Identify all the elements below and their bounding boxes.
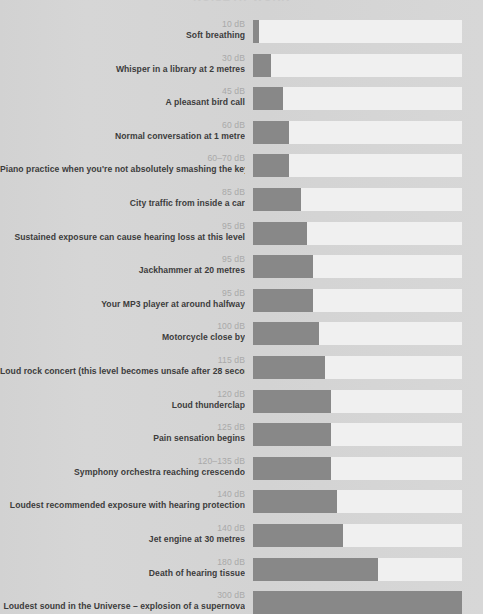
- bar-segment-empty: [456, 20, 462, 43]
- noise-level-row: 45 dBA pleasant bird call: [0, 86, 483, 120]
- row-labels: 95 dBYour MP3 player at around halfway: [0, 288, 253, 310]
- segmented-level-bar: [253, 390, 462, 413]
- decibel-label: 125 dB: [0, 422, 245, 433]
- noise-level-row: 125 dBPain sensation begins: [0, 422, 483, 456]
- source-description-label: Loud thunderclap: [0, 400, 245, 411]
- row-labels: 140 dBLoudest recommended exposure with …: [0, 489, 253, 511]
- segmented-level-bar: [253, 591, 462, 614]
- row-labels: 100 dBMotorcycle close by: [0, 321, 253, 343]
- decibel-label: 100 dB: [0, 321, 245, 332]
- source-description-label: Loudest sound in the Universe – explosio…: [0, 601, 245, 612]
- row-labels: 60–70 dBPiano practice when you're not a…: [0, 153, 253, 175]
- segmented-level-bar: [253, 54, 462, 77]
- noise-level-row: 180 dBDeath of hearing tissue: [0, 557, 483, 591]
- bar-segment-empty: [456, 356, 462, 379]
- noise-level-row: 30 dBWhisper in a library at 2 metres: [0, 53, 483, 87]
- segmented-level-bar: [253, 222, 462, 245]
- noise-level-row: 120–135 dBSymphony orchestra reaching cr…: [0, 456, 483, 490]
- decibel-label: 85 dB: [0, 187, 245, 198]
- segmented-level-bar: [253, 289, 462, 312]
- row-labels: 85 dBCity traffic from inside a car: [0, 187, 253, 209]
- row-labels: 95 dBSustained exposure can cause hearin…: [0, 221, 253, 243]
- segmented-level-bar: [253, 558, 462, 581]
- noise-level-row: 60 dBNormal conversation at 1 metre: [0, 120, 483, 154]
- segmented-level-bar: [253, 524, 462, 547]
- decibel-label: 95 dB: [0, 288, 245, 299]
- decibel-label: 10 dB: [0, 19, 245, 30]
- row-labels: 120 dBLoud thunderclap: [0, 389, 253, 411]
- page-title: NOISE AT WORK: [0, 0, 483, 3]
- decibel-label: 120–135 dB: [0, 456, 245, 467]
- decibel-label: 140 dB: [0, 489, 245, 500]
- row-labels: 30 dBWhisper in a library at 2 metres: [0, 53, 253, 75]
- source-description-label: Piano practice when you're not absolutel…: [0, 164, 245, 175]
- noise-level-row: 120 dBLoud thunderclap: [0, 389, 483, 423]
- decibel-label: 60 dB: [0, 120, 245, 131]
- decibel-label: 120 dB: [0, 389, 245, 400]
- noise-level-row: 85 dBCity traffic from inside a car: [0, 187, 483, 221]
- noise-level-row: 10 dBSoft breathing: [0, 19, 483, 53]
- source-description-label: Death of hearing tissue: [0, 568, 245, 579]
- source-description-label: Your MP3 player at around halfway: [0, 299, 245, 310]
- bar-segment-empty: [456, 390, 462, 413]
- noise-level-row: 100 dBMotorcycle close by: [0, 321, 483, 355]
- row-labels: 120–135 dBSymphony orchestra reaching cr…: [0, 456, 253, 478]
- noise-level-row: 95 dBJackhammer at 20 metres: [0, 254, 483, 288]
- segmented-level-bar: [253, 87, 462, 110]
- bar-segment-filled: [456, 591, 462, 614]
- segmented-level-bar: [253, 423, 462, 446]
- source-description-label: Jackhammer at 20 metres: [0, 265, 245, 276]
- source-description-label: Loudest recommended exposure with hearin…: [0, 500, 245, 511]
- decibel-label: 45 dB: [0, 86, 245, 97]
- row-labels: 180 dBDeath of hearing tissue: [0, 557, 253, 579]
- segmented-level-bar: [253, 490, 462, 513]
- bar-segment-empty: [456, 457, 462, 480]
- bar-segment-empty: [456, 54, 462, 77]
- source-description-label: A pleasant bird call: [0, 97, 245, 108]
- row-labels: 140 dBJet engine at 30 metres: [0, 523, 253, 545]
- decibel-label: 115 dB: [0, 355, 245, 366]
- row-labels: 125 dBPain sensation begins: [0, 422, 253, 444]
- noise-level-row: 60–70 dBPiano practice when you're not a…: [0, 153, 483, 187]
- bar-segment-empty: [456, 490, 462, 513]
- segmented-level-bar: [253, 154, 462, 177]
- bar-segment-empty: [456, 322, 462, 345]
- bar-segment-empty: [456, 524, 462, 547]
- noise-level-row: 115 dBLoud rock concert (this level beco…: [0, 355, 483, 389]
- bar-segment-empty: [456, 423, 462, 446]
- row-labels: 10 dBSoft breathing: [0, 19, 253, 41]
- decibel-label: 300 dB: [0, 590, 245, 601]
- bar-segment-empty: [456, 222, 462, 245]
- row-labels: 115 dBLoud rock concert (this level beco…: [0, 355, 253, 377]
- source-description-label: City traffic from inside a car: [0, 198, 245, 209]
- segmented-level-bar: [253, 322, 462, 345]
- bar-segment-empty: [456, 154, 462, 177]
- segmented-level-bar: [253, 255, 462, 278]
- bar-segment-empty: [456, 121, 462, 144]
- bar-segment-empty: [456, 558, 462, 581]
- source-description-label: Pain sensation begins: [0, 433, 245, 444]
- source-description-label: Symphony orchestra reaching crescendo: [0, 467, 245, 478]
- row-labels: 45 dBA pleasant bird call: [0, 86, 253, 108]
- bar-segment-empty: [456, 188, 462, 211]
- bar-segment-empty: [456, 255, 462, 278]
- decibel-label: 60–70 dB: [0, 153, 245, 164]
- source-description-label: Sustained exposure can cause hearing los…: [0, 232, 245, 243]
- noise-level-row: 300 dBLoudest sound in the Universe – ex…: [0, 590, 483, 614]
- source-description-label: Loud rock concert (this level becomes un…: [0, 366, 245, 377]
- segmented-level-bar: [253, 457, 462, 480]
- source-description-label: Motorcycle close by: [0, 332, 245, 343]
- noise-level-row: 140 dBJet engine at 30 metres: [0, 523, 483, 557]
- row-labels: 95 dBJackhammer at 20 metres: [0, 254, 253, 276]
- row-labels: 300 dBLoudest sound in the Universe – ex…: [0, 590, 253, 612]
- row-labels: 60 dBNormal conversation at 1 metre: [0, 120, 253, 142]
- noise-level-row: 95 dBSustained exposure can cause hearin…: [0, 221, 483, 255]
- decibel-label: 180 dB: [0, 557, 245, 568]
- source-description-label: Whisper in a library at 2 metres: [0, 64, 245, 75]
- segmented-level-bar: [253, 20, 462, 43]
- bar-segment-empty: [456, 289, 462, 312]
- source-description-label: Normal conversation at 1 metre: [0, 131, 245, 142]
- segmented-level-bar: [253, 121, 462, 144]
- source-description-label: Jet engine at 30 metres: [0, 534, 245, 545]
- decibel-label: 140 dB: [0, 523, 245, 534]
